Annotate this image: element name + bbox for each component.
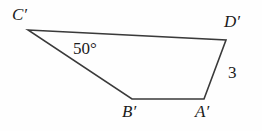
vertex-label-d-prime: D′ <box>224 13 240 30</box>
vertex-label-a-prime: A′ <box>195 103 209 120</box>
geometry-figure: C′ D′ A′ B′ 50° 3 <box>0 0 262 131</box>
side-length-label: 3 <box>228 64 237 81</box>
angle-measure-label: 50° <box>73 40 97 57</box>
vertex-label-c-prime: C′ <box>12 6 27 23</box>
vertex-label-b-prime: B′ <box>122 103 136 120</box>
quadrilateral-outline <box>28 30 226 99</box>
